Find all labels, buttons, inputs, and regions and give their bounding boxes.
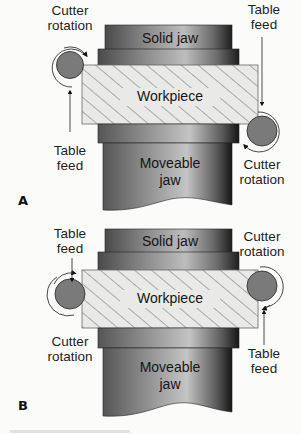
cutter-rotation-label-line1: Cutter xyxy=(52,3,89,18)
panel-label-a: A xyxy=(18,193,28,208)
panel-a: Solid jaw Workpiece Moveable jaw Cutter … xyxy=(18,2,285,210)
workpiece-a: Workpiece xyxy=(82,65,258,124)
workpiece-label: Workpiece xyxy=(137,290,203,306)
table-feed-label-line2: feed xyxy=(251,17,277,32)
workpiece-label: Workpiece xyxy=(137,88,203,104)
cutter-rotation-label-line1: Cutter xyxy=(52,334,89,349)
rotation-arrow-icon xyxy=(264,305,270,309)
vise-milling-diagram: Solid jaw Workpiece Moveable jaw Cutter … xyxy=(0,0,301,434)
table-feed-label-line2: feed xyxy=(57,158,83,173)
table-feed-label-line1: Table xyxy=(248,2,280,17)
moveable-jaw-label-line2: jaw xyxy=(158,172,181,188)
cutter-icon xyxy=(247,271,277,301)
cutter-rotation-label-line2: rotation xyxy=(239,172,284,187)
panel-b: Solid jaw Workpiece Moveable jaw Table f… xyxy=(18,226,285,416)
cutter-rotation-label-line2: rotation xyxy=(47,18,92,33)
table-feed-label-line1: Table xyxy=(54,226,86,241)
table-feed-label-line1: Table xyxy=(54,143,86,158)
cutter-rotation-label-line2: rotation xyxy=(47,349,92,364)
cutter-rotation-label-line1: Cutter xyxy=(244,157,281,172)
cutter-icon xyxy=(55,279,85,309)
cutter-icon xyxy=(57,52,84,79)
table-feed-label-line2: feed xyxy=(57,241,83,256)
panel-label-b: B xyxy=(18,398,28,413)
caption-remnant xyxy=(10,430,130,433)
moveable-jaw-a: Moveable jaw xyxy=(98,124,239,210)
table-feed-label-line2: feed xyxy=(251,361,277,376)
moveable-jaw-b: Moveable jaw xyxy=(98,328,239,416)
moveable-jaw-label-line1: Moveable xyxy=(140,359,201,375)
solid-jaw-label: Solid jaw xyxy=(142,233,199,249)
table-feed-label-line1: Table xyxy=(248,346,280,361)
cutter-rotation-label-line1: Cutter xyxy=(244,229,281,244)
solid-jaw-a: Solid jaw xyxy=(98,25,239,66)
workpiece-b: Workpiece xyxy=(82,270,258,328)
cutter-rotation-label-line2: rotation xyxy=(239,244,284,259)
moveable-jaw-label-line1: Moveable xyxy=(140,155,201,171)
solid-jaw-label: Solid jaw xyxy=(142,30,199,46)
moveable-jaw-label-line2: jaw xyxy=(158,376,181,392)
cutter-icon xyxy=(247,116,277,146)
solid-jaw-b: Solid jaw xyxy=(98,229,239,271)
